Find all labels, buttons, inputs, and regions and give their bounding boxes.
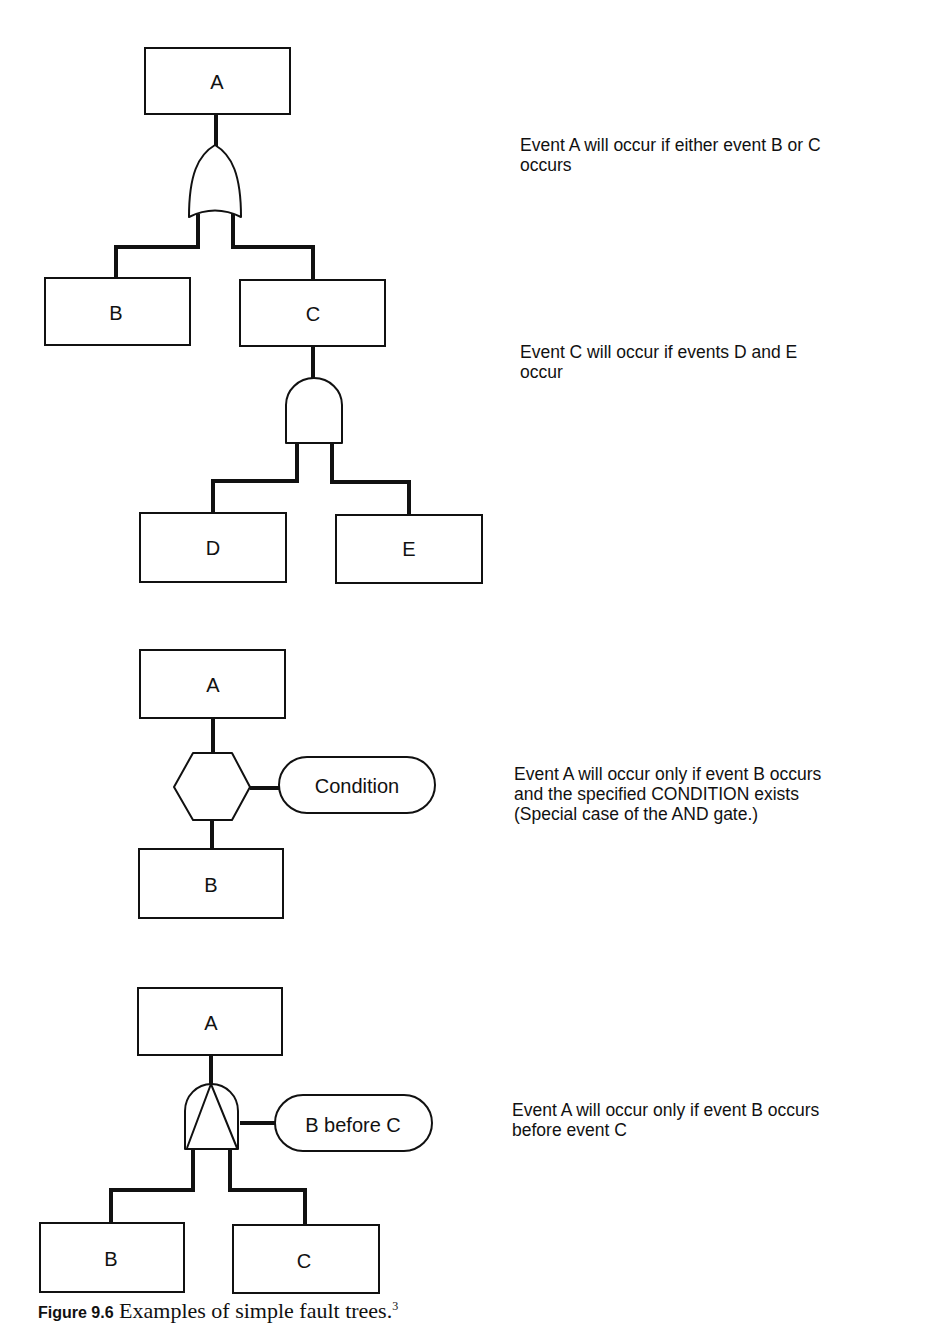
event-label-d: D	[206, 537, 220, 559]
event-label-e: E	[402, 538, 415, 560]
or-gate-description: Event A will occur if either event B or …	[520, 135, 821, 175]
event-label-a: A	[204, 1012, 218, 1034]
inhibit-hexagon-icon	[174, 753, 250, 820]
event-label-c: C	[306, 303, 320, 325]
event-label-c: C	[297, 1250, 311, 1272]
connector-line	[213, 443, 297, 513]
connector-line	[111, 1149, 193, 1223]
inhibit-gate-diagram: A Condition B	[139, 650, 435, 918]
and-gate-description: Event C will occur if events D and E occ…	[520, 342, 797, 382]
or-gate-icon	[189, 145, 241, 217]
figure-label: Figure 9.6	[38, 1304, 114, 1321]
inhibit-gate-description: Event A will occur only if event B occur…	[514, 764, 821, 824]
or-gate-diagram: A B C	[45, 48, 385, 346]
condition-label: B before C	[305, 1114, 401, 1136]
event-label-b: B	[109, 302, 122, 324]
event-label-b: B	[104, 1248, 117, 1270]
priority-and-gate-diagram: A B before C B C	[40, 988, 432, 1293]
and-gate-diagram: D E	[140, 346, 482, 583]
figure-caption: Figure 9.6 Examples of simple fault tree…	[38, 1298, 398, 1324]
event-label-a: A	[206, 674, 220, 696]
event-label-a: A	[210, 71, 224, 93]
connector-line	[233, 214, 313, 280]
connector-line	[332, 443, 409, 515]
connector-line	[230, 1149, 305, 1225]
event-label-b: B	[204, 874, 217, 896]
priority-and-gate-icon	[185, 1084, 238, 1149]
footnote-marker: 3	[392, 1299, 398, 1313]
connector-line	[116, 214, 198, 278]
and-gate-icon	[286, 378, 342, 443]
priority-and-gate-description: Event A will occur only if event B occur…	[512, 1100, 819, 1140]
figure-caption-text: Examples of simple fault trees.	[119, 1298, 392, 1323]
condition-label: Condition	[315, 775, 400, 797]
